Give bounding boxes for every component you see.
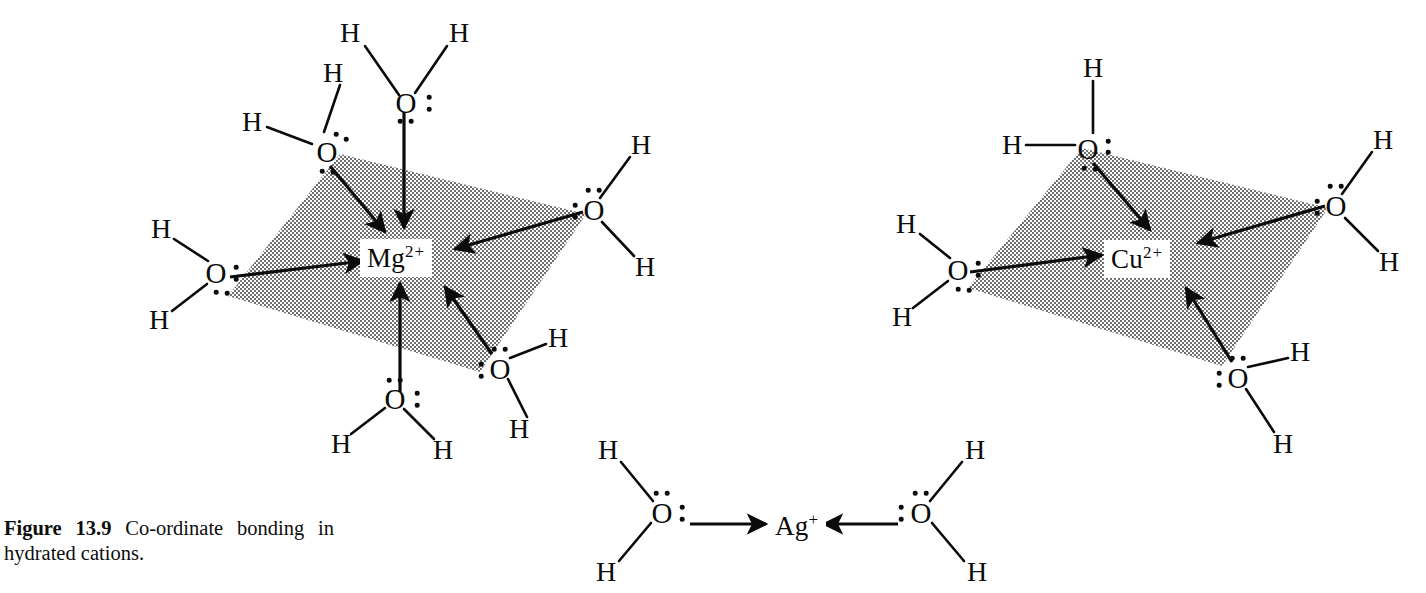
ion-label-ag: Ag+	[768, 507, 826, 545]
bond-o-h	[510, 344, 546, 358]
figure-caption-number: 13.9	[76, 517, 112, 539]
lone-pair-dot	[387, 378, 392, 383]
figure-caption: Figure 13.9 Co-ordinate bonding in hydra…	[4, 516, 334, 566]
atom-hydrogen: H	[967, 558, 987, 586]
atom-hydrogen: H	[433, 436, 453, 464]
lone-pair-dot	[234, 277, 239, 282]
lone-pair-dot	[334, 132, 339, 137]
lone-pair-dot	[503, 347, 508, 352]
atom-hydrogen: H	[892, 303, 912, 331]
lone-pair-dot	[913, 491, 918, 496]
ion-charge-mg: 2+	[405, 242, 425, 261]
atom-hydrogen: H	[596, 558, 616, 586]
ion-symbol-ag: Ag	[775, 511, 809, 541]
atom-hydrogen: H	[548, 324, 568, 352]
bond-o-h	[508, 379, 527, 417]
atom-hydrogen: H	[1002, 131, 1022, 159]
lone-pair-dot	[320, 169, 325, 174]
atom-hydrogen: H	[1373, 126, 1393, 154]
lone-pair-dot	[409, 119, 414, 124]
lone-pair-dot	[234, 265, 239, 270]
atom-hydrogen: H	[151, 215, 171, 243]
ion-label-cu: Cu2+	[1104, 240, 1170, 278]
atom-oxygen: O	[1326, 192, 1347, 221]
lone-pair-dot	[427, 107, 432, 112]
bond-o-h	[602, 222, 634, 256]
atom-hydrogen: H	[631, 131, 651, 159]
lone-pair-dot	[586, 188, 591, 193]
atom-hydrogen: H	[1273, 430, 1293, 458]
lone-pair-dot	[1217, 371, 1222, 376]
bond-o-h	[619, 523, 651, 561]
lone-pair-dot	[924, 491, 929, 496]
lone-pair-dot	[899, 505, 904, 510]
bond-o-h	[930, 462, 962, 501]
ion-symbol-mg: Mg	[367, 243, 405, 273]
lone-pair-dot	[1339, 184, 1344, 189]
bond-o-h	[267, 127, 312, 144]
bond-o-h	[932, 523, 964, 561]
atom-hydrogen: H	[323, 59, 343, 87]
atom-hydrogen: H	[965, 436, 985, 464]
atom-oxygen: O	[584, 196, 605, 225]
bond-o-h	[324, 85, 340, 132]
lone-pair-dot	[1082, 166, 1087, 171]
lone-pair-dot	[976, 261, 981, 266]
bond-o-h	[600, 157, 630, 198]
lone-pair-dot	[1230, 356, 1235, 361]
lone-pair-dot	[492, 347, 497, 352]
lone-pair-dot	[415, 403, 420, 408]
bond-o-h	[621, 462, 653, 501]
atom-oxygen: O	[1078, 135, 1099, 164]
atom-oxygen: O	[1228, 364, 1249, 393]
atom-hydrogen: H	[242, 108, 262, 136]
bond-o-h	[913, 281, 948, 308]
atom-hydrogen: H	[449, 19, 469, 47]
atom-oxygen: O	[396, 89, 417, 118]
atom-oxygen: O	[317, 138, 338, 167]
lone-pair-dot	[479, 362, 484, 367]
lone-pair-dot	[654, 491, 659, 496]
figure-caption-label: Figure	[4, 517, 62, 539]
lone-pair-dot	[967, 288, 972, 293]
bond-o-h	[172, 284, 207, 311]
lone-pair-dot	[665, 491, 670, 496]
lone-pair-dot	[214, 290, 219, 295]
atom-hydrogen: H	[149, 306, 169, 334]
lone-pair-dot	[344, 137, 349, 142]
atom-hydrogen: H	[340, 19, 360, 47]
lone-pair-dot	[1217, 383, 1222, 388]
figure-canvas: H H O H H O H H O H H O H H O H H O Mg2+…	[0, 0, 1426, 593]
atom-oxygen: O	[911, 499, 932, 528]
atom-oxygen: O	[948, 256, 969, 285]
lone-pair-dot	[1241, 356, 1246, 361]
bond-o-h	[1342, 152, 1372, 194]
lone-pair-dot	[398, 119, 403, 124]
lone-pair-dot	[956, 287, 961, 292]
lone-pair-dot	[573, 215, 578, 220]
bond-o-h	[1345, 218, 1378, 251]
lone-pair-dot	[479, 374, 484, 379]
atom-oxygen: O	[206, 259, 227, 288]
atom-hydrogen: H	[896, 210, 916, 238]
ion-charge-ag: +	[809, 510, 820, 529]
lone-pair-dot	[331, 170, 336, 175]
atom-hydrogen: H	[509, 415, 529, 443]
lone-pair-dot	[398, 378, 403, 383]
bond-o-h	[365, 46, 399, 95]
bond-o-h	[404, 409, 434, 439]
bond-o-h	[351, 408, 385, 434]
bond-o-h	[415, 46, 447, 93]
lone-pair-dot	[415, 391, 420, 396]
bond-o-h	[920, 234, 950, 258]
atom-oxygen: O	[652, 499, 673, 528]
atom-hydrogen: H	[598, 436, 618, 464]
lone-pair-dot	[225, 291, 230, 296]
atom-hydrogen: H	[331, 430, 351, 458]
atom-hydrogen: H	[1290, 338, 1310, 366]
lone-pair-dot	[427, 95, 432, 100]
lone-pair-dot	[1093, 167, 1098, 172]
atom-hydrogen: H	[1379, 248, 1399, 276]
lone-pair-dot	[899, 517, 904, 522]
atom-hydrogen: H	[1083, 54, 1103, 82]
